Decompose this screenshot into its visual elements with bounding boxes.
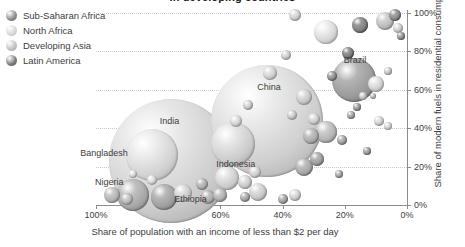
data-bubble[interactable] <box>289 9 301 21</box>
legend-item[interactable]: North Africa <box>6 23 105 37</box>
gridline <box>96 13 407 14</box>
data-bubble[interactable] <box>315 121 337 143</box>
data-bubble[interactable] <box>303 128 319 144</box>
y-tick-label: 60% <box>414 85 432 95</box>
bubble-label: Ethiopia <box>174 194 207 204</box>
bubble-label: Brazil <box>344 55 367 65</box>
data-bubble[interactable] <box>314 20 338 44</box>
y-axis-line <box>407 10 408 208</box>
data-bubble[interactable] <box>104 187 120 203</box>
x-tick-label: 100% <box>84 210 107 220</box>
legend-item-label: North Africa <box>23 25 73 36</box>
data-bubble[interactable] <box>289 189 301 201</box>
y-tick <box>407 51 411 52</box>
data-bubble[interactable] <box>308 113 320 125</box>
y-tick-label: 0% <box>414 200 427 210</box>
chart-title: in developing countries <box>0 0 465 3</box>
x-tick-label: 20% <box>336 210 354 220</box>
y-tick <box>407 90 411 91</box>
chart-legend: Sub-Saharan AfricaNorth AfricaDeveloping… <box>6 8 105 68</box>
data-bubble[interactable] <box>243 100 253 110</box>
y-tick <box>407 167 411 168</box>
x-tick <box>345 205 346 209</box>
y-tick <box>407 13 411 14</box>
bubble-label: India <box>160 116 180 126</box>
data-bubble[interactable] <box>352 17 368 33</box>
x-tick-label: 60% <box>211 210 229 220</box>
data-bubble[interactable] <box>129 170 137 178</box>
bubble-icon <box>6 40 17 51</box>
data-bubble[interactable] <box>335 170 343 178</box>
legend-item-label: Sub-Saharan Africa <box>23 10 105 21</box>
data-bubble[interactable] <box>147 175 157 185</box>
y-axis-label: Share of modern fuels in residential con… <box>432 8 443 188</box>
data-bubble[interactable] <box>281 50 291 60</box>
data-bubble[interactable] <box>359 92 367 100</box>
data-bubble[interactable] <box>389 9 401 21</box>
data-bubble[interactable] <box>310 152 324 166</box>
y-tick <box>407 205 411 206</box>
y-tick <box>407 128 411 129</box>
x-tick <box>283 205 284 209</box>
data-bubble[interactable] <box>213 188 227 202</box>
bubble-icon <box>6 55 17 66</box>
data-bubble[interactable] <box>353 103 361 111</box>
bubble-label: Indonesia <box>216 159 255 169</box>
data-bubble[interactable] <box>296 89 312 105</box>
y-tick-label: 80% <box>414 46 432 56</box>
data-bubble[interactable] <box>196 178 208 190</box>
data-bubble[interactable] <box>263 66 277 80</box>
legend-item[interactable]: Developing Asia <box>6 38 105 52</box>
y-tick-label: 20% <box>414 162 432 172</box>
x-tick <box>220 205 221 209</box>
data-bubble[interactable] <box>240 192 250 202</box>
data-bubble[interactable] <box>384 67 392 75</box>
bubble-icon <box>6 25 17 36</box>
data-bubble[interactable] <box>363 147 371 155</box>
data-bubble[interactable] <box>215 166 239 190</box>
data-bubble[interactable] <box>370 93 376 99</box>
data-bubble[interactable] <box>121 193 133 205</box>
data-bubble[interactable] <box>347 111 355 119</box>
data-bubble[interactable] <box>287 110 297 120</box>
bubble-label: China <box>257 82 281 92</box>
data-bubble[interactable] <box>397 32 405 40</box>
data-bubble[interactable] <box>384 122 392 130</box>
data-bubble[interactable] <box>374 116 384 126</box>
x-tick-label: 40% <box>274 210 292 220</box>
gridline <box>96 51 407 52</box>
x-tick <box>96 205 97 209</box>
data-bubble[interactable] <box>230 115 242 127</box>
x-tick-label: 0% <box>400 210 413 220</box>
y-tick-label: 40% <box>414 123 432 133</box>
data-bubble[interactable] <box>368 76 384 92</box>
legend-item[interactable]: Sub-Saharan Africa <box>6 8 105 22</box>
legend-item-label: Developing Asia <box>23 40 91 51</box>
bubble-label: Bangladesh <box>80 148 128 158</box>
bubble-label: Nigeria <box>95 177 124 187</box>
data-bubble[interactable] <box>337 135 347 145</box>
data-bubble[interactable] <box>278 194 288 204</box>
legend-item-label: Latin America <box>23 55 81 66</box>
data-bubble[interactable] <box>327 71 337 81</box>
bubble-icon <box>6 10 17 21</box>
legend-item[interactable]: Latin America <box>6 53 105 67</box>
x-axis-label: Share of population with an income of le… <box>0 226 430 237</box>
bubble-chart: in developing countries Sub-Saharan Afri… <box>0 0 465 247</box>
